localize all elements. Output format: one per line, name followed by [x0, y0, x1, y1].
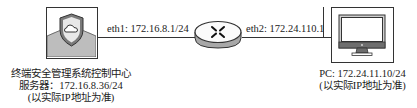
link-router-pc	[242, 37, 332, 38]
shield-cloud-icon	[47, 8, 96, 57]
link-server-router	[98, 37, 195, 38]
monitor-icon	[332, 8, 392, 61]
server-caption-line-3: (以实际IP地址为准)	[0, 92, 142, 104]
pc-caption-line-1: PC: 172.24.11.10/24	[305, 68, 417, 80]
router-node[interactable]	[194, 20, 242, 50]
server-node[interactable]	[46, 7, 98, 59]
eth1-label: eth1: 172.16.8.1/24	[107, 23, 189, 35]
router-icon	[194, 20, 242, 50]
divider-tick	[323, 7, 324, 38]
pc-node[interactable]	[331, 7, 394, 63]
pc-caption: PC: 172.24.11.10/24 (以实际IP地址为准)	[305, 68, 417, 92]
server-caption-line-1: 终端安全管理系统控制中心	[0, 68, 142, 80]
server-caption: 终端安全管理系统控制中心 服务器：172.16.8.36/24 (以实际IP地址…	[0, 68, 142, 104]
eth2-label: eth2: 172.24.110.1	[246, 23, 324, 35]
pc-caption-line-2: (以实际IP地址为准)	[305, 80, 417, 92]
server-caption-line-2: 服务器：172.16.8.36/24	[0, 80, 142, 92]
